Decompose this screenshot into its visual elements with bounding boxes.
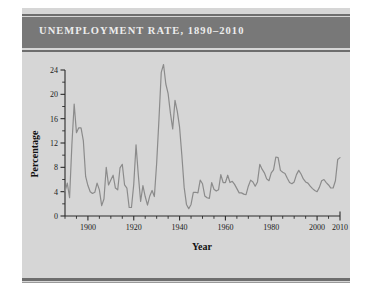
svg-text:4: 4 xyxy=(54,188,58,197)
svg-text:1980: 1980 xyxy=(263,223,279,232)
svg-text:1960: 1960 xyxy=(217,223,233,232)
title-banner: UNEMPLOYMENT RATE, 1890–2010 xyxy=(22,17,350,48)
banner-bottom-rule xyxy=(22,50,350,52)
y-axis-title: Percentage xyxy=(29,130,40,178)
panel-bottom-rule xyxy=(22,278,350,281)
svg-text:8: 8 xyxy=(54,163,58,172)
panel-bottom-rule-shadow xyxy=(22,282,350,283)
svg-text:16: 16 xyxy=(50,115,58,124)
title-banner-group: UNEMPLOYMENT RATE, 1890–2010 xyxy=(22,14,350,52)
svg-text:12: 12 xyxy=(50,139,58,148)
banner-top-rule xyxy=(22,14,350,16)
svg-text:2010: 2010 xyxy=(332,223,348,232)
svg-text:1940: 1940 xyxy=(172,223,188,232)
svg-text:2000: 2000 xyxy=(309,223,325,232)
figure-title: UNEMPLOYMENT RATE, 1890–2010 xyxy=(39,25,244,36)
x-axis-title: Year xyxy=(192,241,213,252)
line-chart: 04812162024 1900192019401960198020002010… xyxy=(22,56,350,270)
figure-root: UNEMPLOYMENT RATE, 1890–2010 04812162024… xyxy=(0,0,372,293)
figure-panel: UNEMPLOYMENT RATE, 1890–2010 04812162024… xyxy=(22,8,350,282)
svg-text:1900: 1900 xyxy=(80,223,96,232)
svg-text:24: 24 xyxy=(50,66,58,75)
svg-text:0: 0 xyxy=(54,212,58,221)
data-series-unemployment-rate xyxy=(65,65,340,209)
series-line xyxy=(65,65,340,209)
x-axis: 1900192019401960198020002010 xyxy=(65,212,348,233)
y-axis: 04812162024 xyxy=(50,66,65,221)
chart-container: 04812162024 1900192019401960198020002010… xyxy=(22,56,350,270)
svg-text:20: 20 xyxy=(50,90,58,99)
svg-text:1920: 1920 xyxy=(126,223,142,232)
